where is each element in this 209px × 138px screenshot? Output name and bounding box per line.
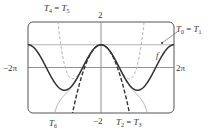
t4-t5-label: T4 = T5	[44, 4, 70, 14]
subscript: 1	[199, 29, 202, 35]
subscript: 5	[67, 8, 70, 14]
subscript: 3	[139, 122, 142, 128]
equals: =	[124, 117, 134, 127]
t0-label-leader	[162, 32, 177, 43]
equals: =	[52, 3, 62, 13]
equals: =	[184, 24, 194, 34]
t0-t1-label: T0 = T1	[176, 25, 202, 35]
x-min-label: −2π	[3, 64, 17, 73]
f-label: f	[156, 51, 159, 60]
t2-t3-label: T2 = T3	[116, 118, 142, 128]
x-max-label: 2π	[176, 64, 185, 73]
t6-label: T6	[49, 119, 57, 129]
y-max-label: 2	[98, 11, 103, 20]
subscript: 6	[54, 123, 57, 129]
y-min-label: −2	[93, 117, 103, 126]
f-symbol: f	[156, 50, 159, 60]
t0-label-dot	[161, 42, 163, 44]
